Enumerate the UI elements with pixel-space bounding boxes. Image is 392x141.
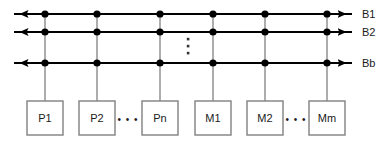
vertical-ellipsis-dot-1 [187, 38, 190, 41]
junction-dot-b2-p1 [41, 28, 48, 35]
junction-dot-b2-p2 [93, 28, 100, 35]
junction-dot-b2-mm [323, 28, 330, 35]
node-label-pn: Pn [153, 112, 166, 124]
junction-dot-b1-p2 [93, 10, 100, 17]
junction-dot-b1-mm [323, 10, 330, 17]
junction-dot-bb-pn [156, 59, 163, 66]
node-box-p1: P1 [27, 101, 63, 135]
bus-b1: B1 [14, 8, 375, 20]
junction-dot-bb-p1 [41, 59, 48, 66]
horizontal-ellipsis-memories: • • • [285, 114, 306, 125]
junction-dot-b2-m1 [209, 28, 216, 35]
connector-lines-group [45, 14, 327, 101]
vertical-ellipsis-icon [187, 38, 190, 55]
junction-dot-bb-mm [323, 59, 330, 66]
node-label-p1: P1 [38, 112, 51, 124]
junction-dot-b1-p1 [41, 10, 48, 17]
junction-dot-bb-p2 [93, 59, 100, 66]
bus-bb: Bb [14, 57, 375, 69]
vertical-ellipsis-dot-2 [187, 45, 190, 48]
bus-b2: B2 [14, 26, 375, 38]
junction-dot-b2-m2 [261, 28, 268, 35]
junction-dot-bb-m2 [261, 59, 268, 66]
junction-dot-bb-m1 [209, 59, 216, 66]
bus-architecture-diagram: B1 B2 B [0, 0, 392, 141]
junction-dot-b2-pn [156, 28, 163, 35]
horizontal-ellipsis-processors: • • • [117, 114, 138, 125]
node-box-pn: Pn [142, 101, 178, 135]
node-box-m1: M1 [195, 101, 231, 135]
vertical-ellipsis-dot-3 [187, 52, 190, 55]
junction-dot-b1-m1 [209, 10, 216, 17]
bus-label-b2: B2 [362, 26, 375, 38]
node-label-m1: M1 [205, 112, 220, 124]
node-label-p2: P2 [90, 112, 103, 124]
node-label-mm: Mm [318, 112, 336, 124]
junction-dot-b1-m2 [261, 10, 268, 17]
bus-label-b1: B1 [362, 8, 375, 20]
diagram-canvas: B1 B2 B [0, 0, 392, 141]
node-box-m2: M2 [247, 101, 283, 135]
node-label-m2: M2 [257, 112, 272, 124]
junction-dot-b1-pn [156, 10, 163, 17]
bus-label-bb: Bb [362, 57, 375, 69]
node-box-p2: P2 [79, 101, 115, 135]
node-box-mm: Mm [309, 101, 345, 135]
